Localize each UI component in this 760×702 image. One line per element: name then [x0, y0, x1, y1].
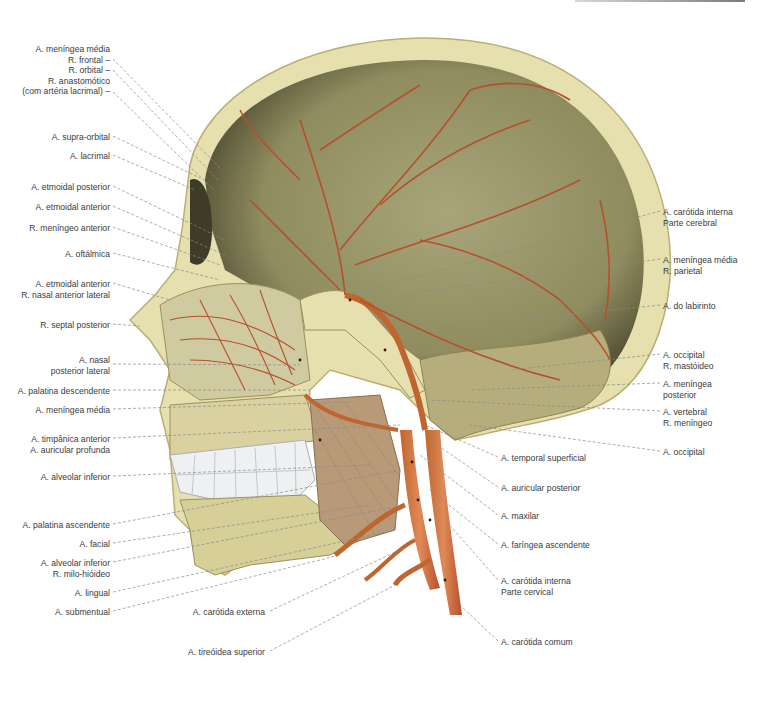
anatomy-label-line: posterior: [663, 390, 712, 401]
anatomy-label-line: A. alveolar inferior: [41, 558, 110, 569]
anatomy-label-line: A. lingual: [75, 588, 110, 599]
anatomy-label-line: A. carótida comum: [501, 637, 573, 648]
anatomy-label-line: posterior lateral: [51, 366, 110, 377]
anatomy-label-line: A. etmoidal anterior: [21, 279, 110, 290]
anatomy-label-line: R. orbital –: [22, 65, 110, 76]
anatomy-label-line: Parte cerebral: [663, 218, 733, 229]
anatomy-label-line: A. temporal superficial: [501, 453, 586, 464]
anatomy-label-line: A. meníngea média: [22, 44, 110, 55]
anatomy-label-line: A. vertebral: [663, 407, 712, 418]
anatomy-label: A. lacrimal: [70, 151, 110, 162]
anatomy-label: A. maxilar: [501, 511, 539, 522]
anatomy-label: A. timpânica anteriorA. auricular profun…: [30, 434, 110, 455]
anatomy-label: A. alveolar inferior: [41, 472, 110, 483]
anatomy-label-line: A. meníngea média: [663, 255, 738, 266]
anatomy-label-line: A. carótida externa: [193, 607, 265, 618]
anatomy-label-line: R. milo-hióideo: [41, 569, 110, 580]
anatomy-label: A. etmoidal anteriorR. nasal anterior la…: [21, 279, 110, 300]
anatomy-label-line: R. meníngeo anterior: [29, 223, 110, 234]
anatomy-label-line: A. timpânica anterior: [30, 434, 110, 445]
anatomy-label: A. occipitalR. mastóideo: [663, 350, 714, 371]
anatomy-label-line: A. do labirinto: [663, 301, 716, 312]
anatomy-label: A. submentual: [55, 607, 110, 618]
anatomy-label: A. vertebralR. meníngeo: [663, 407, 712, 428]
anatomy-label-line: R. nasal anterior lateral: [21, 290, 110, 301]
anatomy-label-line: A. faríngea ascendente: [501, 540, 590, 551]
anatomy-label-line: A. lacrimal: [70, 151, 110, 162]
anatomy-label-line: A. supra-orbital: [52, 132, 110, 143]
anatomy-label: A. carótida internaParte cervical: [501, 576, 571, 597]
anatomy-label-line: A. tireóidea superior: [188, 647, 265, 658]
anatomy-label: A. tireóidea superior: [188, 647, 265, 658]
anatomy-label: A. carótida externa: [193, 607, 265, 618]
anatomy-label-line: A. occipital: [663, 447, 705, 458]
anatomy-label-line: R. frontal –: [22, 55, 110, 66]
anatomy-label: A. meníngea média: [35, 405, 110, 416]
anatomy-label-line: A. auricular profunda: [30, 445, 110, 456]
anatomy-label: A. temporal superficial: [501, 453, 586, 464]
anatomy-label-line: A. oftálmica: [65, 249, 110, 260]
anatomy-label: A. faríngea ascendente: [501, 540, 590, 551]
anatomy-label-line: Parte cervical: [501, 587, 571, 598]
anatomy-label: A. carótida internaParte cerebral: [663, 207, 733, 228]
anatomy-label: A. oftálmica: [65, 249, 110, 260]
skull-illustration: [0, 0, 760, 702]
anatomy-label-line: A. palatina descendente: [18, 386, 110, 397]
anatomy-label-line: (com artéria lacrimal) –: [22, 86, 110, 97]
anatomy-label-line: R. meníngeo: [663, 418, 712, 429]
anatomy-label: A. occipital: [663, 447, 705, 458]
anatomy-label-line: A. carótida interna: [501, 576, 571, 587]
anatomy-label-line: A. alveolar inferior: [41, 472, 110, 483]
pterygoid-muscle: [310, 395, 400, 545]
anatomy-label-line: R. mastóideo: [663, 361, 714, 372]
anatomy-label: A. alveolar inferiorR. milo-hióideo: [41, 558, 110, 579]
anatomy-label: R. septal posterior: [40, 320, 110, 331]
anatomy-label-line: A. etmoidal anterior: [35, 202, 110, 213]
anatomy-label: A. auricular posterior: [501, 483, 580, 494]
anatomy-label-line: R. anastomótico: [22, 76, 110, 87]
anatomy-label: A. nasalposterior lateral: [51, 355, 110, 376]
anatomy-label: A. do labirinto: [663, 301, 716, 312]
anatomy-label-line: A. occipital: [663, 350, 714, 361]
anatomy-label: A. facial: [79, 539, 110, 550]
anatomy-label: A. supra-orbital: [52, 132, 110, 143]
anatomy-label: A. meníngea médiaR. parietal: [663, 255, 738, 276]
anatomy-label-line: A. maxilar: [501, 511, 539, 522]
anatomy-label: A. meníngea médiaR. frontal –R. orbital …: [22, 44, 110, 97]
anatomy-label: A. lingual: [75, 588, 110, 599]
anatomy-label-line: R. parietal: [663, 266, 738, 277]
anatomy-label: A. palatina descendente: [18, 386, 110, 397]
anatomy-label: A. palatina ascendente: [23, 520, 110, 531]
anatomy-label: A. etmoidal posterior: [31, 182, 110, 193]
anatomy-label: A. etmoidal anterior: [35, 202, 110, 213]
anatomy-label-line: A. auricular posterior: [501, 483, 580, 494]
nasal-cavity: [160, 284, 310, 400]
anatomy-label-line: A. carótida interna: [663, 207, 733, 218]
anatomy-label-line: A. meníngea média: [35, 405, 110, 416]
anatomy-label: A. meníngeaposterior: [663, 379, 712, 400]
anatomy-label: A. carótida comum: [501, 637, 573, 648]
anatomy-label-line: A. meníngea: [663, 379, 712, 390]
anatomy-label-line: R. septal posterior: [40, 320, 110, 331]
anatomy-label-line: A. nasal: [51, 355, 110, 366]
anatomy-label-line: A. etmoidal posterior: [31, 182, 110, 193]
anatomy-label-line: A. palatina ascendente: [23, 520, 110, 531]
anatomy-label-line: A. facial: [79, 539, 110, 550]
anatomy-label: R. meníngeo anterior: [29, 223, 110, 234]
anatomy-label-line: A. submentual: [55, 607, 110, 618]
